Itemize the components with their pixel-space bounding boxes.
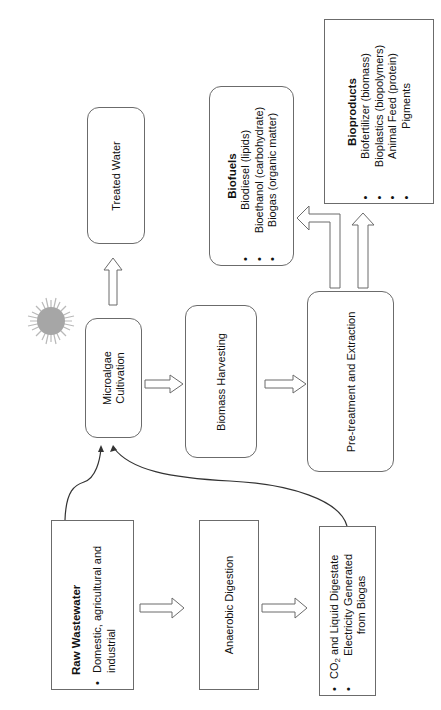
anaerobic-digestion-box: Anaerobic Digestion <box>199 520 259 690</box>
microalgae-cultivation-box: Microalgae Cultivation <box>85 318 142 438</box>
arrow-cultivation-to-treated-water <box>104 258 122 305</box>
arrow-harvesting-to-pretreatment <box>265 375 306 393</box>
electricity-item: Electricity Generatedfrom Biogas <box>341 531 368 691</box>
bioproducts-item: Bioplastics (biopolymers) <box>373 24 387 199</box>
biofuels-item: Biogas (organic matter) <box>265 91 279 261</box>
anaerobic-digestion-label: Anaerobic Digestion <box>223 556 236 654</box>
bioproducts-title: Bioproducts <box>345 24 359 199</box>
bioproducts-item: Animal Feed (protein) <box>386 24 400 199</box>
microalgae-cultivation-label: Microalgae Cultivation <box>101 351 127 405</box>
biofuels-item: Bioethanol (carbohydrate) <box>252 91 266 261</box>
sun-icon <box>28 298 74 344</box>
biomass-harvesting-label: Biomass Harvesting <box>215 333 228 431</box>
arrowhead-icon <box>98 445 104 452</box>
raw-wastewater-box: Raw Wastewater Domestic, agricultural an… <box>51 520 134 690</box>
raw-wastewater-source: Domestic, agricultural and industrial <box>90 535 117 685</box>
biofuels-title: Biofuels <box>224 91 238 261</box>
biomass-harvesting-box: Biomass Harvesting <box>185 305 257 458</box>
arrow-pretreatment-to-biofuels <box>297 206 340 288</box>
curve-wastewater-to-cultivation <box>65 448 101 520</box>
bioproducts-item: Pigments <box>400 24 414 199</box>
digestion-outputs-box: CO2 and Liquid Digestate Electricity Gen… <box>319 526 376 696</box>
arrow-wastewater-to-digestion <box>140 598 184 618</box>
co2-digestate-item: CO2 and Liquid Digestate <box>327 531 341 691</box>
treated-water-label: Treated Water <box>110 141 123 211</box>
arrow-cultivation-to-harvesting <box>145 375 183 393</box>
bioproducts-box: Bioproducts Biofertilizer (biomass) Biop… <box>324 19 434 204</box>
arrow-pretreatment-to-bioproducts <box>352 213 374 288</box>
raw-wastewater-title: Raw Wastewater <box>68 525 82 685</box>
arrowhead-icon <box>110 445 117 452</box>
biofuels-item: Biodiesel (lipids) <box>238 91 252 261</box>
biofuels-box: Biofuels Biodiesel (lipids) Bioethanol (… <box>209 86 294 266</box>
arrow-digestion-to-outputs <box>262 598 307 618</box>
bioproducts-item: Biofertilizer (biomass) <box>359 24 373 199</box>
pretreatment-extraction-box: Pre-treatment and Extraction <box>307 291 394 472</box>
treated-water-box: Treated Water <box>87 107 145 244</box>
pretreatment-extraction-label: Pre-treatment and Extraction <box>344 311 357 452</box>
